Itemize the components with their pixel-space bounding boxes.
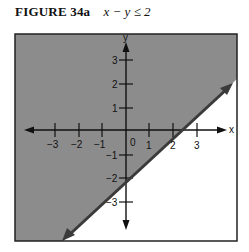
y-tick-label: 2	[112, 79, 118, 90]
x-tick-label: 1	[146, 140, 152, 151]
y-tick-label: 1	[112, 103, 118, 114]
x-axis-label: x	[229, 124, 234, 135]
y-tick-label: −2	[106, 173, 118, 184]
x-tick-label: 3	[194, 140, 200, 151]
y-tick-label: −1	[106, 150, 118, 161]
inequality-graph: x y 0 −3 −2 −1 1 2 3 3 2 1 −1 −2 −3	[0, 0, 249, 252]
x-tick-label: −2	[71, 139, 83, 150]
origin-label: 0	[130, 137, 136, 148]
x-tick-label: −3	[47, 139, 59, 150]
y-axis-label: y	[123, 32, 128, 43]
y-tick-label: −3	[106, 197, 118, 208]
y-tick-label: 3	[112, 55, 118, 66]
x-tick-label: 2	[170, 140, 176, 151]
x-tick-label: −1	[94, 139, 106, 150]
